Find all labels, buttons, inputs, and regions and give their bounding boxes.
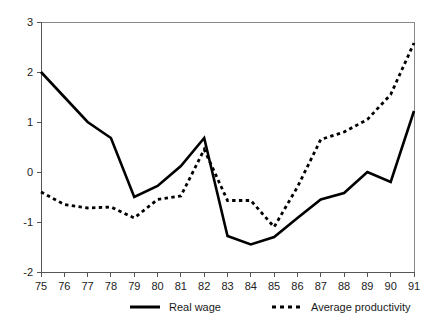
y-tick-label: 3: [27, 16, 33, 28]
x-tick-label: 78: [105, 280, 117, 292]
x-tick-label: 87: [315, 280, 327, 292]
legend-label-real-wage: Real wage: [169, 301, 221, 313]
y-tick-label: 2: [27, 66, 33, 78]
series-line-average-productivity: [41, 43, 414, 227]
x-tick-label: 76: [58, 280, 70, 292]
legend-label-average-productivity: Average productivity: [311, 301, 411, 313]
x-tick-label: 77: [82, 280, 94, 292]
x-tick-label: 90: [385, 280, 397, 292]
chart-axes: [37, 22, 414, 277]
chart-series: [41, 43, 414, 245]
x-tick-label: 84: [245, 280, 257, 292]
x-tick-label: 82: [198, 280, 210, 292]
x-tick-label: 80: [151, 280, 163, 292]
chart-figure: 3210-1-2 7576777879808182838485868788899…: [0, 0, 433, 328]
x-tick-label: 89: [361, 280, 373, 292]
x-tick-label: 75: [35, 280, 47, 292]
x-tick-label: 88: [338, 280, 350, 292]
x-axis-tick-labels: 7576777879808182838485868788899091: [35, 280, 420, 292]
y-tick-label: 0: [27, 166, 33, 178]
y-axis-tick-labels: 3210-1-2: [23, 16, 33, 278]
line-chart: 3210-1-2 7576777879808182838485868788899…: [0, 0, 433, 328]
x-tick-label: 91: [408, 280, 420, 292]
chart-legend: Real wageAverage productivity: [130, 301, 411, 313]
x-tick-label: 81: [175, 280, 187, 292]
y-tick-label: 1: [27, 116, 33, 128]
x-tick-label: 79: [128, 280, 140, 292]
y-tick-label: -1: [23, 216, 33, 228]
y-tick-label: -2: [23, 266, 33, 278]
series-line-real-wage: [41, 72, 414, 245]
x-tick-label: 85: [268, 280, 280, 292]
x-tick-label: 86: [291, 280, 303, 292]
x-tick-label: 83: [221, 280, 233, 292]
